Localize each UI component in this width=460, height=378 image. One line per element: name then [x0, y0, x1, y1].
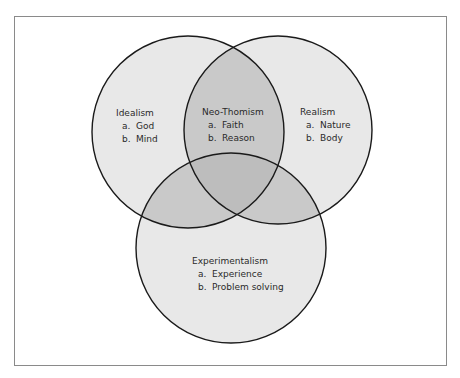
experimentalism-title: Experimentalism [192, 255, 284, 268]
realism-item-b: b.Body [300, 132, 351, 145]
experimentalism-item-a: a.Experience [192, 268, 284, 281]
idealism-item-a: a.God [116, 120, 158, 133]
neo-thomism-item-b: b.Reason [202, 132, 264, 145]
idealism-label: Idealism a.God b.Mind [116, 107, 158, 146]
realism-title: Realism [300, 106, 351, 119]
venn-diagram [0, 0, 460, 378]
neo-thomism-item-a: a.Faith [202, 119, 264, 132]
experimentalism-label: Experimentalism a.Experience b.Problem s… [192, 255, 284, 294]
realism-item-a: a.Nature [300, 119, 351, 132]
idealism-item-b: b.Mind [116, 133, 158, 146]
experimentalism-item-b: b.Problem solving [192, 281, 284, 294]
idealism-title: Idealism [116, 107, 158, 120]
neo-thomism-title: Neo-Thomism [202, 106, 264, 119]
neo-thomism-label: Neo-Thomism a.Faith b.Reason [202, 106, 264, 145]
realism-label: Realism a.Nature b.Body [300, 106, 351, 145]
